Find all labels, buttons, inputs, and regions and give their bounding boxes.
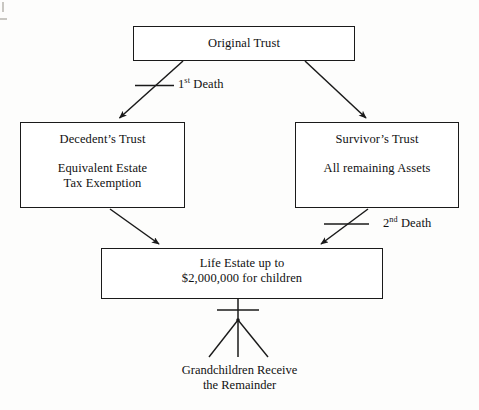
node-decedents-trust-title: Decedent’s Trust [60,132,146,147]
arrow-original-to-decedents [120,61,184,118]
node-survivors-trust-title: Survivor’s Trust [336,132,419,147]
terminal-label-grandchildren: Grandchildren Receive the Remainder [0,363,479,393]
node-decedents-trust[interactable]: Decedent’s Trust Equivalent Estate Tax E… [20,122,185,208]
node-life-estate-title: Life Estate up to [200,256,285,271]
node-decedents-trust-subtitle: Equivalent Estate Tax Exemption [58,161,148,191]
second-death-word: Death [398,216,432,230]
node-original-trust-title: Original Trust [208,36,280,51]
node-survivors-trust-subtitle: All remaining Assets [324,161,431,176]
node-survivors-trust[interactable]: Survivor’s Trust All remaining Assets [295,122,459,208]
arrow-decedents-to-life-estate [110,209,159,244]
edge-label-second-death: 2nd Death [383,216,431,231]
arrow-survivors-to-life-estate [321,209,368,244]
node-original-trust[interactable]: Original Trust [133,26,355,61]
node-life-estate[interactable]: Life Estate up to $2,000,000 for childre… [101,248,383,299]
estate-trust-flowchart: Original Trust Decedent’s Trust Equivale… [0,0,479,410]
arrow-original-to-survivors [305,61,366,118]
first-death-word: Death [190,77,224,91]
fan-branch-right [238,320,268,357]
second-death-ordinal: nd [389,215,397,224]
fan-branch-left [209,320,238,357]
edge-label-first-death: 1st Death [178,77,224,92]
node-life-estate-subtitle: $2,000,000 for children [182,271,302,286]
